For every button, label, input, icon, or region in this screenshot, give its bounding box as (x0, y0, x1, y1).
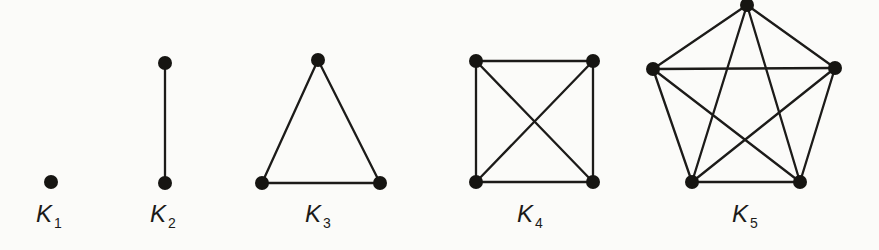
complete-graph-k5-vertex (685, 175, 699, 189)
complete-graph-k2-vertex (158, 176, 172, 190)
label-k3-letter: K (305, 200, 321, 227)
label-k4-letter: K (517, 200, 533, 227)
complete-graph-k5-edge (653, 68, 835, 69)
complete-graph-k3-edge (262, 60, 318, 183)
label-k2-subscript: 2 (168, 215, 176, 231)
complete-graph-k5-edge (800, 68, 835, 182)
label-k5-subscript: 5 (750, 215, 758, 231)
complete-graphs-figure: K1 K2 K3 K4 K5 (0, 0, 879, 250)
complete-graph-k5-edge (653, 5, 747, 69)
label-k2-letter: K (150, 200, 166, 227)
complete-graph-k5-vertex (740, 0, 754, 12)
complete-graph-k2-vertex (158, 56, 172, 70)
label-k2: K2 (150, 202, 176, 226)
complete-graph-k3-edge (318, 60, 380, 183)
label-k3-subscript: 3 (323, 215, 331, 231)
complete-graph-k5-edge (653, 69, 692, 182)
label-k4: K4 (517, 202, 543, 226)
label-k3: K3 (305, 202, 331, 226)
label-k5: K5 (732, 202, 758, 226)
label-k5-letter: K (732, 200, 748, 227)
complete-graph-k4-vertex (586, 54, 600, 68)
complete-graph-k4-vertex (469, 54, 483, 68)
complete-graph-k5-vertex (646, 62, 660, 76)
complete-graph-k4-vertex (469, 175, 483, 189)
complete-graph-k4-vertex (586, 175, 600, 189)
label-k1-letter: K (36, 200, 52, 227)
label-k4-subscript: 4 (535, 215, 543, 231)
complete-graph-k5-vertex (793, 175, 807, 189)
complete-graph-k1-vertex (44, 175, 58, 189)
complete-graph-k5-edge (747, 5, 835, 68)
complete-graph-k3-vertex (311, 53, 325, 67)
complete-graph-k3-vertex (255, 176, 269, 190)
complete-graph-k5-edge (747, 5, 800, 182)
label-k1-subscript: 1 (54, 215, 62, 231)
complete-graph-k3-vertex (373, 176, 387, 190)
complete-graph-k5-vertex (828, 61, 842, 75)
complete-graph-k5-edge (653, 69, 800, 182)
label-k1: K1 (36, 202, 62, 226)
complete-graph-k5-edge (692, 68, 835, 182)
complete-graph-k5-edge (692, 5, 747, 182)
